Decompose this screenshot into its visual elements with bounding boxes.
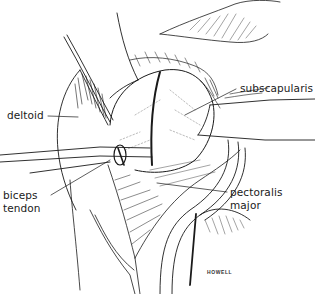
pectoralis-leader bbox=[157, 183, 227, 192]
pectoralis-major-muscle bbox=[108, 150, 240, 258]
label-pectoralis: pectoralis bbox=[230, 186, 283, 198]
upper-retractor bbox=[64, 13, 138, 122]
deltoid-leader bbox=[48, 116, 78, 117]
upper-skin-flap bbox=[160, 0, 280, 42]
right-skin-margin bbox=[160, 140, 250, 294]
label-tendon: tendon bbox=[3, 202, 41, 214]
anatomy-drawing bbox=[0, 0, 315, 294]
label-deltoid: deltoid bbox=[7, 109, 44, 121]
right-retractor bbox=[198, 88, 315, 140]
horizontal-instrument bbox=[0, 145, 152, 173]
illustration-canvas: deltoid subscapularis biceps tendon pect… bbox=[0, 0, 315, 294]
label-subscapularis: subscapularis bbox=[240, 82, 313, 94]
deltoid-muscle bbox=[57, 70, 108, 210]
label-biceps: biceps bbox=[3, 189, 38, 201]
artist-signature: HOWELL bbox=[207, 269, 232, 275]
subscapularis-muscle bbox=[130, 52, 220, 108]
label-major: major bbox=[230, 199, 261, 211]
